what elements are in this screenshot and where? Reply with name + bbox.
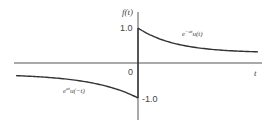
series-label-negative: eatu(−t)	[63, 86, 85, 95]
chart: f(t) t 0 1.0 -1.0 e−atu(t) eatu(−t)	[0, 0, 275, 127]
y-axis-label: f(t)	[122, 7, 133, 17]
series-label-positive: e−atu(t)	[182, 29, 203, 38]
origin-label: 0	[128, 67, 133, 77]
series-label-positive-rest: u(t)	[192, 30, 203, 38]
series-label-negative-rest: u(−t)	[70, 87, 85, 95]
ytick-label-pos: 1.0	[120, 23, 133, 33]
ytick-label-neg: -1.0	[142, 94, 158, 104]
x-axis-label: t	[254, 68, 257, 78]
